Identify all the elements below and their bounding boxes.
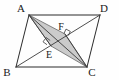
vertex-label-c: C: [88, 66, 95, 78]
geometry-figure-canvas: A D B C E F: [0, 0, 119, 80]
vertex-label-b: B: [3, 66, 10, 78]
geometry-diagram: A D B C E F: [0, 0, 119, 80]
side-ba-line: [16, 15, 29, 67]
vertex-label-a: A: [17, 2, 25, 14]
point-label-e: E: [46, 49, 52, 60]
side-dc-line: [87, 15, 100, 67]
point-label-f: F: [58, 21, 64, 32]
vertex-label-d: D: [100, 2, 108, 14]
